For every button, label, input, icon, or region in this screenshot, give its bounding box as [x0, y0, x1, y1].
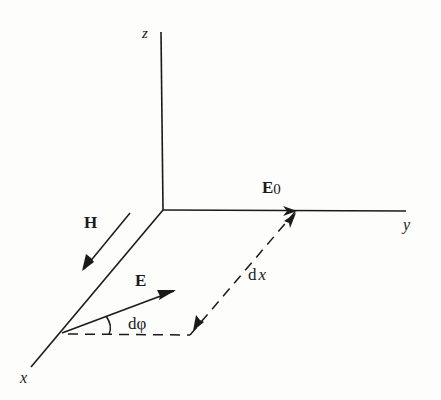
e0-label: E0 — [262, 178, 281, 197]
h-arrowhead-icon — [82, 254, 94, 271]
em-wave-rotation-diagram: z y x E0 H E dφ dx — [0, 0, 441, 400]
e-vector — [62, 291, 174, 333]
e-arrowhead-icon — [157, 290, 176, 300]
y-axis — [163, 210, 406, 211]
dphi-label: dφ — [128, 314, 147, 333]
dx-displacement-line — [190, 212, 295, 335]
z-axis-label: z — [141, 25, 148, 41]
h-label: H — [84, 213, 97, 232]
x-axis-label: x — [19, 369, 27, 386]
z-axis — [161, 32, 163, 210]
dx-lower-arrowhead-icon — [193, 315, 204, 331]
dx-upper-arrowhead-icon — [284, 213, 296, 228]
dashed-baseline — [68, 334, 190, 335]
angle-arc — [106, 316, 110, 334]
dx-label: dx — [248, 265, 267, 284]
e-label: E — [135, 271, 146, 290]
y-axis-label: y — [401, 216, 411, 234]
